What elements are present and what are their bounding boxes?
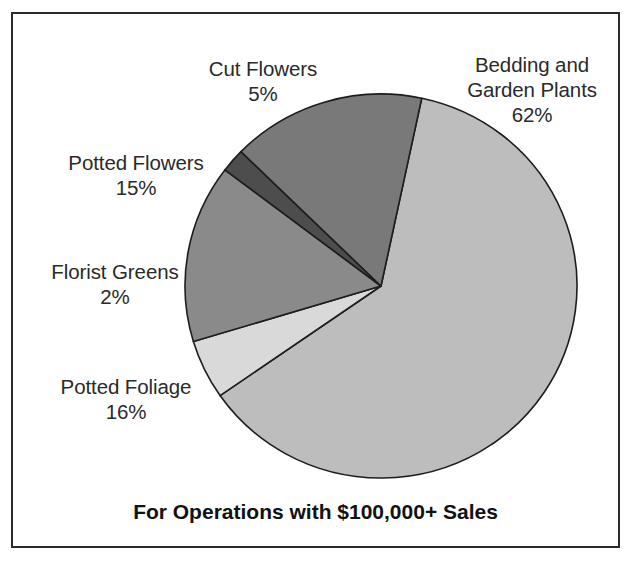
slice-label-name: Potted Foliage	[33, 374, 219, 399]
slice-label-percent: 2%	[22, 284, 208, 309]
slice-label-florist-greens: Florist Greens 2%	[22, 259, 208, 309]
slice-label-cut-flowers: Cut Flowers 5%	[175, 56, 351, 106]
slice-label-percent: 62%	[439, 102, 625, 127]
chart-caption: For Operations with $100,000+ Sales	[11, 500, 620, 524]
slice-label-percent: 15%	[43, 175, 229, 200]
slice-label-name-line2: Garden Plants	[439, 77, 625, 102]
slice-label-potted-flowers: Potted Flowers 15%	[43, 150, 229, 200]
slice-label-percent: 16%	[33, 399, 219, 424]
slice-label-percent: 5%	[175, 81, 351, 106]
slice-label-name: Cut Flowers	[175, 56, 351, 81]
slice-label-bedding-and-garden-plants: Bedding and Garden Plants 62%	[439, 52, 625, 127]
slice-label-name: Florist Greens	[22, 259, 208, 284]
pie-slice-group	[185, 94, 577, 478]
pie-chart-figure: Bedding and Garden Plants 62% Cut Flower…	[0, 0, 634, 573]
slice-label-name-line1: Bedding and	[439, 52, 625, 77]
slice-label-name: Potted Flowers	[43, 150, 229, 175]
slice-label-potted-foliage: Potted Foliage 16%	[33, 374, 219, 424]
